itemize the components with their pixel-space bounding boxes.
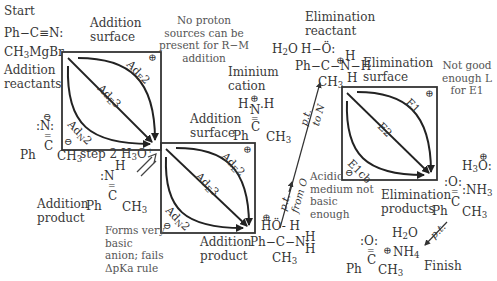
elimination-reactant-label: Elimination reactant (305, 11, 375, 39)
elim-products-C: C (451, 196, 460, 210)
add-product-2-H2: H (305, 243, 315, 257)
final-CH3: CH3 (378, 264, 403, 278)
imine-H: H (115, 160, 125, 174)
elim-reactant-chain: Ph−C−N−H (295, 60, 371, 74)
elim-reactant-OH: H−Ö: (301, 43, 335, 57)
imine-anion-C: C (44, 140, 53, 154)
imine-C: C (108, 190, 117, 204)
iminium-cation-label: Iminium cation (228, 66, 276, 94)
addition-surface-1-label: Addition surface (90, 17, 150, 45)
elimination-surface-label: Elimination surface (363, 57, 425, 85)
forms-basic-anion-note: Forms very basic anion; fails ΔpKa rule (105, 224, 167, 274)
box3-plus-charge: ⊕ (425, 88, 433, 99)
iminium-C: C (251, 121, 260, 135)
ammonium-charge: ⊕ (383, 245, 391, 257)
add-product-2-OH: HÖ- H (261, 220, 300, 234)
box2-minus-charge: ⊖ (163, 220, 171, 231)
elim-reactant-water: H2O (272, 43, 298, 57)
add-product-2-CH3: CH3 (272, 252, 297, 266)
box1-plus-charge: ⊕ (148, 52, 156, 63)
addition-product-1-label: Addition product (37, 198, 87, 226)
iminium-CH3: CH3 (266, 131, 291, 145)
start-label: Start (4, 5, 35, 19)
iminium-Ph: Ph (233, 130, 249, 144)
final-C: C (367, 254, 376, 268)
elim-products-CH3: CH3 (462, 206, 487, 220)
acidic-medium-note: Acidic medium not basic enough (310, 170, 380, 220)
ammonium: NH4 (393, 246, 419, 260)
no-proton-note: No proton sources can be present for R−M… (158, 14, 250, 64)
imine-anion-CH3: CH3 (57, 150, 82, 164)
elim-reactant-CH3: CH3 (318, 76, 343, 90)
add-product-2-chain: Ph−C−N: (250, 236, 309, 250)
start-molecule-nitrile: Ph−C≡N: (4, 27, 63, 41)
hydronium: H3O: (462, 160, 492, 174)
addition-product-2-label: Addition product (200, 236, 255, 264)
imine-CH3: CH3 (122, 201, 147, 215)
box2-plus-charge: ⊕ (243, 144, 251, 155)
addition-reactants-label: Addition reactants (4, 64, 62, 92)
imine-Ph: Ph (86, 200, 102, 214)
not-good-L-note: Not good enough L for E1 (438, 59, 496, 97)
finish-label: Finish (424, 260, 462, 274)
start-molecule-grignard: CH3MgBr (4, 46, 64, 60)
box1-minus-charge: ⊖ (64, 136, 72, 147)
imine-anion-Ph: Ph (20, 149, 36, 163)
elim-products-Ph: Ph (432, 205, 448, 219)
elim-reactant-H-bottom: H (347, 72, 357, 86)
ammonia: :NH3 (462, 184, 493, 198)
final-Ph: Ph (346, 263, 362, 277)
final-water: H2O (392, 227, 418, 241)
mechanism-diagram: Start Ph−C≡N: CH3MgBr Addition reactants… (0, 0, 497, 281)
